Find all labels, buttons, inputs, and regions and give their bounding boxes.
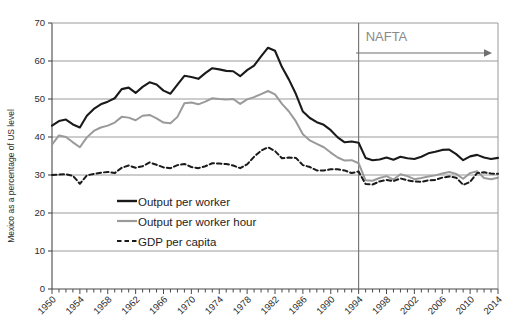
y-axis-title: Mexico as a percentage of US level xyxy=(6,109,16,243)
y-tick-label-20: 20 xyxy=(34,207,45,218)
nafta-label: NAFTA xyxy=(366,29,408,44)
y-tick-label-30: 30 xyxy=(34,169,45,180)
y-tick-label-60: 60 xyxy=(34,55,45,66)
legend-label-output-per-worker-hour: Output per worker hour xyxy=(138,216,256,228)
y-tick-label-10: 10 xyxy=(34,245,45,256)
line-chart: 010203040506070 195019541958196219661970… xyxy=(0,0,515,336)
chart-background xyxy=(0,0,515,336)
legend-item-output-per-worker-hour: Output per worker hour xyxy=(117,216,256,228)
y-tick-label-50: 50 xyxy=(34,93,45,104)
legend-label-gdp-per-capita: GDP per capita xyxy=(138,236,217,248)
y-tick-label-0: 0 xyxy=(40,283,45,294)
y-tick-label-40: 40 xyxy=(34,131,45,142)
chart-container: 010203040506070 195019541958196219661970… xyxy=(0,0,515,336)
y-tick-label-70: 70 xyxy=(34,17,45,28)
legend-label-output-per-worker: Output per worker xyxy=(138,196,230,208)
